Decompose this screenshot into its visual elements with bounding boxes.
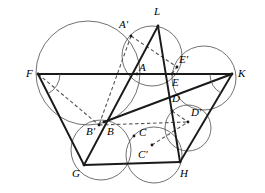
seg-L-G xyxy=(84,26,158,165)
dash-Cp-Dp xyxy=(152,122,188,145)
point-marker-Dp xyxy=(187,121,190,124)
point-marker-C xyxy=(133,135,136,138)
point-label-H: H xyxy=(180,168,188,179)
point-marker-F xyxy=(37,73,40,76)
arc-at-K xyxy=(210,74,221,93)
point-label-C: C xyxy=(139,127,146,138)
point-label-Cp: C' xyxy=(138,149,148,160)
angle-arc-group xyxy=(48,74,221,94)
point-label-E: E xyxy=(172,77,179,88)
point-label-B: B xyxy=(107,126,114,137)
point-label-G: G xyxy=(72,168,80,179)
point-marker-D xyxy=(171,110,174,113)
point-label-K: K xyxy=(238,68,245,79)
dash-F-Bp xyxy=(38,74,99,125)
point-marker-A xyxy=(136,73,139,76)
point-label-Ep: E' xyxy=(179,54,188,65)
point-label-L: L xyxy=(154,6,160,17)
point-marker-Bp xyxy=(98,124,101,127)
dash-Ap-Bp xyxy=(99,36,131,125)
point-marker-H xyxy=(179,161,182,164)
geometry-figure: FKLGHABCDEA'B'C'D'E' xyxy=(0,0,265,193)
seg-K-H xyxy=(180,74,232,162)
point-marker-E xyxy=(171,73,174,76)
point-label-Bp: B' xyxy=(86,126,95,137)
point-marker-Cp xyxy=(151,144,154,147)
seg-F-G xyxy=(38,74,84,165)
circle-group xyxy=(36,21,236,183)
point-label-D: D xyxy=(172,93,180,104)
point-marker-Ap xyxy=(130,35,133,38)
point-marker-Ep xyxy=(176,66,179,69)
point-marker-B xyxy=(103,121,106,124)
point-label-A: A xyxy=(139,62,146,73)
point-marker-G xyxy=(83,164,86,167)
point-marker-L xyxy=(157,25,160,28)
point-marker-K xyxy=(231,73,234,76)
point-label-Ap: A' xyxy=(119,19,128,30)
point-label-Dp: D' xyxy=(191,107,201,118)
figure-canvas xyxy=(0,0,265,193)
dash-D-Dp xyxy=(172,111,188,122)
circle-F-A-B-large xyxy=(36,21,140,125)
seg-G-H xyxy=(84,162,180,165)
circle-G-B-C xyxy=(71,120,131,180)
point-label-F: F xyxy=(26,68,33,79)
